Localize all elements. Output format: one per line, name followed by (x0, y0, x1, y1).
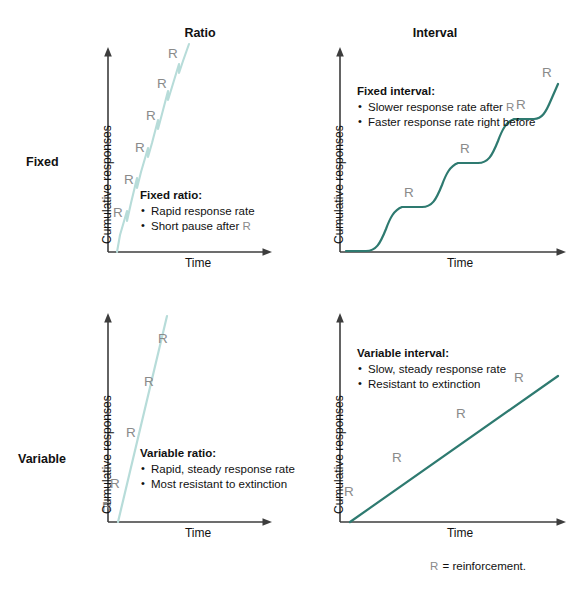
figure-canvas: Ratio Interval Fixed Variable R R R R R … (0, 0, 571, 598)
callout-bullet: Short pause after R (140, 219, 255, 235)
svg-text:R: R (135, 140, 145, 155)
y-axis-label-variable-ratio: Cumulative responses (100, 395, 114, 514)
svg-text:R: R (157, 76, 167, 91)
r-symbol: R (506, 101, 514, 113)
callout-bullet: Slower response rate after R (357, 100, 535, 116)
legend-text: = reinforcement. (443, 560, 526, 572)
svg-text:R: R (126, 425, 136, 440)
y-axis-label-fixed-interval: Cumulative responses (332, 125, 346, 244)
svg-text:R: R (460, 141, 470, 156)
callout-title-fixed-ratio: Fixed ratio: (140, 188, 255, 204)
svg-text:R: R (392, 450, 402, 465)
callout-fixed-interval: Fixed interval: Slower response rate aft… (357, 84, 535, 131)
svg-text:R: R (113, 205, 123, 220)
svg-text:R: R (456, 406, 466, 421)
svg-text:R: R (514, 370, 524, 385)
x-axis-label-fixed-ratio: Time (148, 256, 248, 270)
callout-bullet: Most resistant to extinction (140, 477, 295, 493)
axes-fixed-interval (336, 47, 566, 256)
chart-fixed-interval: R R R R Time Cumulative responses (320, 44, 568, 284)
column-header-ratio: Ratio (120, 26, 280, 40)
svg-text:R: R (168, 46, 178, 61)
y-axis-label-fixed-ratio: Cumulative responses (100, 125, 114, 244)
callout-bullet: Slow, steady response rate (357, 362, 506, 378)
callout-variable-ratio: Variable ratio: Rapid, steady response r… (140, 446, 295, 493)
svg-text:R: R (146, 108, 156, 123)
callout-bullet: Rapid, steady response rate (140, 462, 295, 478)
row-header-fixed: Fixed (26, 155, 59, 169)
y-axis-label-variable-interval: Cumulative responses (332, 395, 346, 514)
svg-text:R: R (158, 331, 168, 346)
legend-r-symbol: R (430, 560, 438, 572)
axes-variable-ratio (104, 313, 272, 526)
svg-text:R: R (404, 185, 414, 200)
svg-text:R: R (542, 65, 552, 80)
callout-bullet: Faster response rate right before (357, 115, 535, 131)
callout-bullet: Resistant to extinction (357, 377, 506, 393)
svg-text:R: R (144, 374, 154, 389)
r-symbol: R (242, 220, 250, 232)
callout-bullet: Rapid response rate (140, 204, 255, 220)
legend-reinforcement: R = reinforcement. (430, 560, 526, 572)
callout-variable-interval: Variable interval: Slow, steady response… (357, 346, 506, 393)
row-header-variable: Variable (18, 452, 66, 466)
x-axis-label-variable-interval: Time (410, 526, 510, 540)
callout-title-variable-interval: Variable interval: (357, 346, 506, 362)
callout-title-variable-ratio: Variable ratio: (140, 446, 295, 462)
axes-variable-interval (336, 313, 566, 526)
callout-fixed-ratio: Fixed ratio: Rapid response rate Short p… (140, 188, 255, 235)
callout-title-fixed-interval: Fixed interval: (357, 84, 535, 100)
chart-variable-ratio: R R R R R Time Cumulative responses (88, 310, 273, 558)
x-axis-label-variable-ratio: Time (148, 526, 248, 540)
chart-fixed-ratio: R R R R R R Time Cumulative responses (88, 44, 273, 284)
svg-text:R: R (124, 172, 134, 187)
x-axis-label-fixed-interval: Time (410, 256, 510, 270)
column-header-interval: Interval (355, 26, 515, 40)
series-variable-interval (350, 376, 558, 522)
